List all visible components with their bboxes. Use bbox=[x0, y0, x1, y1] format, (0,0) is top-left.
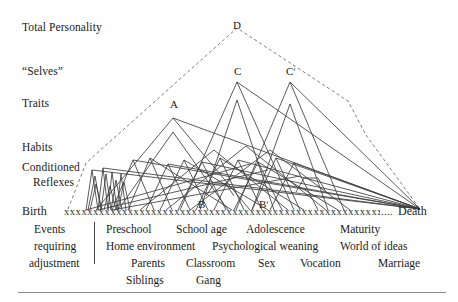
caption-maturity: Maturity bbox=[340, 224, 380, 236]
axis-tick-marks: xxxxxxxxxxxxxxxxxxxxxxxxxxxxxxxxxxxxxxxx… bbox=[64, 206, 380, 217]
caption-adolescence: Adolescence bbox=[246, 224, 305, 236]
peak-label-c: C bbox=[234, 66, 241, 77]
caption-left-requiring: requiring bbox=[34, 241, 76, 253]
caption-world-of-ideas: World of ideas bbox=[340, 241, 407, 253]
caption-gang: Gang bbox=[196, 275, 221, 287]
stage-label-habits: Habits bbox=[22, 142, 53, 154]
caption-parents: Parents bbox=[131, 258, 165, 270]
peak-network bbox=[86, 82, 420, 210]
caption-vocation: Vocation bbox=[300, 258, 341, 270]
caption-home-environment: Home environment bbox=[106, 241, 195, 253]
caption-siblings: Siblings bbox=[126, 275, 164, 287]
personality-development-diagram: Total Personality “Selves” Traits Habits… bbox=[0, 0, 458, 302]
peak-label-a: A bbox=[170, 99, 178, 110]
axis-label-death: Death bbox=[398, 205, 427, 217]
bottom-rule bbox=[18, 292, 446, 293]
peak-label-c-prime: Cʹ bbox=[286, 66, 296, 77]
caption-psychological-weaning: Psychological weaning bbox=[212, 241, 318, 253]
stage-label-traits: Traits bbox=[22, 98, 49, 110]
stage-label-reflexes: Reflexes bbox=[33, 177, 74, 189]
peak-label-d: D bbox=[233, 20, 241, 31]
axis-label-birth: Birth bbox=[22, 205, 47, 217]
caption-school-age: School age bbox=[176, 224, 227, 236]
stage-label-conditioned: Conditioned bbox=[22, 162, 80, 174]
caption-marriage: Marriage bbox=[378, 258, 420, 270]
caption-left-events: Events bbox=[34, 224, 65, 236]
caption-divider bbox=[94, 222, 95, 264]
caption-classroom: Classroom bbox=[186, 258, 235, 270]
stage-label-total-personality: Total Personality bbox=[22, 22, 102, 34]
caption-left-adjustment: adjustment bbox=[29, 258, 79, 270]
caption-sex: Sex bbox=[258, 258, 275, 270]
stage-label-selves: “Selves” bbox=[22, 66, 63, 78]
caption-preschool: Preschool bbox=[106, 224, 151, 236]
axis-trailing-dots: ..... bbox=[378, 206, 393, 217]
dashed-envelope bbox=[68, 28, 420, 209]
